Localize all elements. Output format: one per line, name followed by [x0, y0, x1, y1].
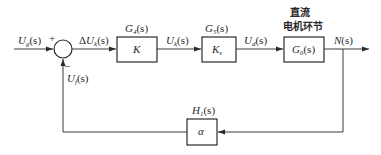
minus-sign: −	[64, 60, 70, 72]
uk-signal-label: Uk(s)	[166, 34, 189, 48]
g4-tf-label: G4(s)	[125, 22, 148, 36]
input-signal-label: Ug(s)	[18, 34, 41, 48]
g4-content: K	[132, 43, 141, 55]
block-diagram: Ug(s) + − ΔUk(s) G4(s) K Uk(s) G5(s) Ks …	[0, 0, 381, 155]
plus-sign: +	[49, 32, 55, 44]
g5-tf-label: G5(s)	[205, 22, 228, 36]
h1-tf-label: H1(s)	[191, 104, 215, 118]
h1-content: α	[198, 125, 204, 137]
feedback-path-left	[63, 59, 187, 132]
summing-junction	[54, 40, 72, 58]
dc-motor-header-line1: 直流	[290, 6, 310, 18]
output-signal-label: N(s)	[333, 34, 353, 47]
feedback-signal-label: Uf(s)	[67, 72, 89, 86]
ud-signal-label: Ud(s)	[244, 34, 267, 48]
dc-motor-header-line2: 电机环节	[283, 20, 323, 32]
error-signal-label: ΔUk(s)	[79, 34, 109, 48]
g6-content: G6(s)	[292, 43, 315, 57]
